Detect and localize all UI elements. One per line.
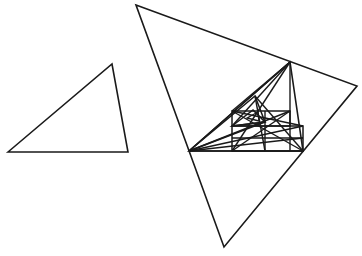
- figure-canvas: [0, 0, 362, 256]
- shape-layer: [8, 5, 357, 247]
- small-triangle: [8, 64, 128, 152]
- geometry-drawing: [0, 0, 362, 256]
